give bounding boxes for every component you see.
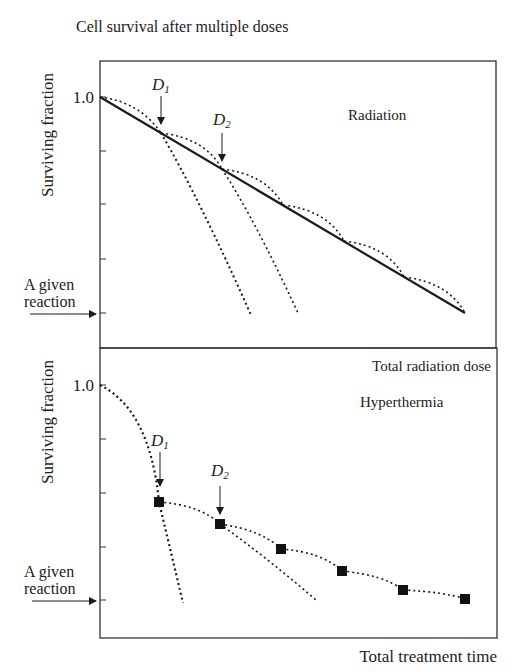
top-reaction-label-2: reaction bbox=[24, 293, 76, 310]
square-marker-icon bbox=[460, 594, 470, 604]
bottom-single-dose-curve bbox=[100, 385, 183, 603]
bottom-d1-label: D1 bbox=[150, 431, 169, 451]
bottom-fraction-curves bbox=[159, 502, 465, 601]
top-y-ticks bbox=[100, 97, 106, 313]
bottom-x-axis-label: Total treatment time bbox=[359, 647, 497, 666]
square-marker-icon bbox=[398, 585, 408, 595]
bottom-panel-frame bbox=[100, 348, 497, 638]
top-d2-label: D2 bbox=[212, 110, 231, 130]
square-marker-icon bbox=[215, 519, 225, 529]
top-panel-frame bbox=[100, 61, 496, 348]
bottom-fraction-markers bbox=[154, 497, 470, 604]
top-reaction-label-1: A given bbox=[24, 276, 74, 294]
top-panel: 1.0 Surviving fraction A given reaction … bbox=[24, 61, 496, 348]
top-x-axis-label: Total radiation dose bbox=[372, 358, 491, 374]
bottom-panel-label: Hyperthermia bbox=[360, 394, 444, 410]
bottom-y-ticks bbox=[100, 385, 106, 600]
square-marker-icon bbox=[154, 497, 164, 507]
square-marker-icon bbox=[337, 566, 347, 576]
top-y-tick-1: 1.0 bbox=[73, 88, 94, 107]
top-d1-label: D1 bbox=[151, 75, 170, 95]
bottom-d2-label: D2 bbox=[210, 461, 229, 481]
bottom-panel: Total radiation dose Hyperthermia 1.0 Su… bbox=[24, 348, 497, 666]
chart-canvas: 1.0 Surviving fraction A given reaction … bbox=[0, 0, 518, 672]
top-panel-label: Radiation bbox=[348, 107, 407, 123]
square-marker-icon bbox=[276, 544, 286, 554]
top-y-axis-label: Surviving fraction bbox=[38, 72, 57, 197]
top-solid-line bbox=[100, 97, 465, 313]
bottom-reaction-label-2: reaction bbox=[24, 580, 76, 597]
bottom-reaction-label-1: A given bbox=[24, 563, 74, 581]
bottom-y-tick-1: 1.0 bbox=[73, 376, 94, 395]
bottom-y-axis-label: Surviving fraction bbox=[38, 359, 57, 484]
